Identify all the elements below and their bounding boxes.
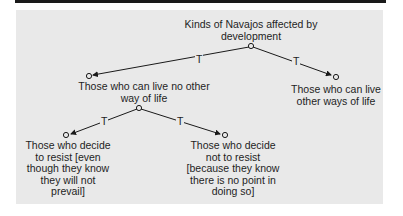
root-label: Kinds of Navajos affected by development xyxy=(176,19,326,42)
resist-line5: prevail] xyxy=(20,186,116,198)
resist-line1: Those who decide xyxy=(20,140,116,152)
mid-node xyxy=(136,105,141,110)
no-other-label: Those who can live no other way of life xyxy=(74,81,214,104)
not-resist-line3: [because they know xyxy=(183,163,283,175)
no-other-node xyxy=(86,73,91,78)
not-resist-line1: Those who decide xyxy=(183,140,283,152)
other-ways-line2: other ways of life xyxy=(288,96,384,108)
edge-label-root-right: T xyxy=(292,56,300,67)
resist-label: Those who decide to resist [even though … xyxy=(20,140,116,198)
edge-label-mid-left: T xyxy=(100,116,108,127)
other-ways-node xyxy=(333,74,338,79)
edge-label-root-left: T xyxy=(195,54,203,65)
not-resist-line5: doing so] xyxy=(183,186,283,198)
edge-label-mid-right: T xyxy=(176,116,184,127)
no-other-line2: way of life xyxy=(74,93,214,105)
no-other-line1: Those who can live no other xyxy=(74,81,214,93)
resist-node xyxy=(63,132,68,137)
root-label-line1: Kinds of Navajos affected by xyxy=(176,19,326,31)
resist-line3: though they know xyxy=(20,163,116,175)
root-label-line2: development xyxy=(176,31,326,43)
other-ways-line1: Those who can live xyxy=(288,84,384,96)
not-resist-node xyxy=(222,132,227,137)
other-ways-label: Those who can live other ways of life xyxy=(288,84,384,107)
not-resist-label: Those who decide not to resist [because … xyxy=(183,140,283,198)
root-node xyxy=(248,43,253,48)
